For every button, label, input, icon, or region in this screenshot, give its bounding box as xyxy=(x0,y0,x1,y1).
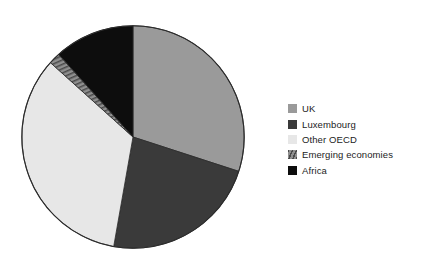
pie-chart-svg xyxy=(21,25,245,249)
legend-label-emerging-economies: Emerging economies xyxy=(302,149,393,160)
legend-swatch-uk xyxy=(288,104,297,113)
legend-label-africa: Africa xyxy=(302,165,327,176)
legend-item-emerging-economies[interactable]: Emerging economies xyxy=(288,147,418,162)
legend-swatch-africa xyxy=(288,166,297,175)
legend-swatch-luxembourg xyxy=(288,120,297,129)
pie-chart-plot-area xyxy=(21,25,245,249)
legend-label-uk: UK xyxy=(302,103,315,114)
legend-item-africa[interactable]: Africa xyxy=(288,163,418,178)
legend-item-other-oecd[interactable]: Other OECD xyxy=(288,132,418,147)
pie-chart-figure: UK Luxembourg Other OECD Emerging econom… xyxy=(0,0,422,270)
legend-swatch-other-oecd xyxy=(288,135,297,144)
chart-legend: UK Luxembourg Other OECD Emerging econom… xyxy=(288,101,418,178)
legend-label-luxembourg: Luxembourg xyxy=(302,119,356,130)
legend-item-uk[interactable]: UK xyxy=(288,101,418,116)
pie-slice-group xyxy=(22,26,244,248)
legend-item-luxembourg[interactable]: Luxembourg xyxy=(288,116,418,131)
legend-swatch-emerging-economies xyxy=(288,150,297,159)
legend-label-other-oecd: Other OECD xyxy=(302,134,357,145)
